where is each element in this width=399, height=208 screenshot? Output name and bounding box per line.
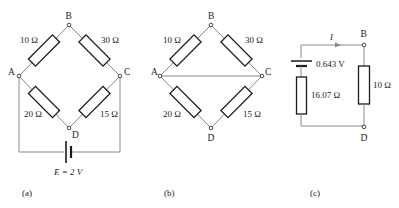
figure-canvas: B A C D 10 Ω 30 Ω 20 Ω 15 Ω E = 2 V (a) … [0,0,399,208]
node-label-a: A [151,67,158,77]
resistor-label-ab: 10 Ω [20,35,38,45]
node-b [362,43,366,47]
panel-b: B A C D 10 Ω 30 Ω 20 Ω 15 Ω (b) [151,11,271,198]
panel-label-c: (c) [310,188,320,198]
node-c [118,74,122,78]
resistor-label-ad: 20 Ω [163,109,181,119]
node-c [260,74,264,78]
node-a [158,74,162,78]
wire-top [301,45,364,58]
node-d [209,126,213,130]
node-label-d: D [361,133,368,143]
resistor-label-dc: 15 Ω [100,109,118,119]
resistor-label-bc: 30 Ω [101,35,119,45]
node-label-d: D [72,130,79,140]
panel-a: B A C D 10 Ω 30 Ω 20 Ω 15 Ω E = 2 V (a) [8,11,130,198]
resistor-label-bc: 30 Ω [245,35,263,45]
resistor-load [359,66,370,104]
node-a [17,74,21,78]
node-b [67,23,71,27]
wire-bottom [301,114,364,126]
node-b [209,23,213,27]
current-arrow-icon [335,43,341,48]
node-label-d: D [208,133,215,143]
resistor-label-ad: 20 Ω [24,109,42,119]
node-label-c: C [124,67,130,77]
current-label: I [329,32,334,42]
resistor-label-load: 10 Ω [373,80,391,90]
source-label-c: 0.643 V [316,59,345,69]
node-d [67,126,71,130]
resistor-label-ab: 10 Ω [163,35,181,45]
resistor-label-internal: 16.07 Ω [311,90,341,100]
node-label-b: B [361,29,367,39]
node-d [362,125,366,129]
source-label-a: E = 2 V [53,167,84,177]
node-label-b: B [208,11,214,21]
node-label-a: A [8,67,15,77]
panel-c: I B D 0.643 V 16.07 Ω 10 Ω (c) [291,29,391,198]
node-label-c: C [265,67,271,77]
resistor-label-dc: 15 Ω [243,109,261,119]
panel-label-b: (b) [164,188,175,198]
resistor-internal [297,77,307,114]
panel-label-a: (a) [22,188,32,198]
node-label-b: B [66,11,72,21]
